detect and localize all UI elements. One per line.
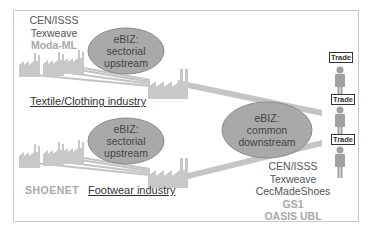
common-downstream-text: eBIZ: common downstream: [232, 112, 302, 148]
factory-icon: [43, 142, 64, 166]
shoenet-label: SHOENET: [25, 184, 79, 196]
ellipse-line: sectorial: [96, 135, 156, 147]
org-label: Moda-ML: [22, 39, 86, 52]
ellipse-line: upstream: [96, 147, 156, 159]
ellipse-line: eBIZ:: [96, 123, 156, 135]
org-label: CEN/ISSS: [253, 160, 333, 173]
trade-label: Trade: [329, 52, 353, 63]
person-icon: [335, 147, 345, 179]
factory-icon: [43, 52, 64, 76]
bottom-right-orgs: CEN/ISSS Texweave CecMadeShoes GS1 OASIS…: [253, 160, 333, 223]
trade-label: Trade: [331, 134, 355, 145]
textile-upstream-text: eBIZ: sectorial upstream: [96, 33, 156, 69]
ellipse-line: eBIZ:: [96, 33, 156, 45]
org-label: CecMadeShoes: [253, 185, 333, 198]
org-label: Texweave: [253, 173, 333, 186]
org-label: Texweave: [22, 27, 86, 40]
ellipse-line: sectorial: [96, 45, 156, 57]
textile-industry-label: Textile/Clothing industry: [30, 95, 146, 107]
factory-icon: [19, 144, 40, 168]
factory-icon: [63, 50, 84, 74]
factory-icon: [148, 69, 188, 99]
top-left-orgs: CEN/ISSS Texweave Moda-ML: [22, 14, 86, 52]
org-label: GS1: [253, 198, 333, 211]
factory-icon: [63, 140, 84, 164]
org-label: OASIS UBL: [253, 210, 333, 223]
footwear-industry-label: Footwear industry: [88, 184, 175, 196]
ellipse-line: eBIZ:: [232, 112, 302, 124]
org-label: CEN/ISSS: [22, 14, 86, 27]
ellipse-line: upstream: [96, 57, 156, 69]
ellipse-line: common: [232, 124, 302, 136]
factory-icon: [19, 53, 40, 77]
footwear-upstream-text: eBIZ: sectorial upstream: [96, 123, 156, 159]
ellipse-line: downstream: [232, 136, 302, 148]
trade-persons: [335, 67, 345, 179]
trade-label: Trade: [331, 94, 355, 105]
